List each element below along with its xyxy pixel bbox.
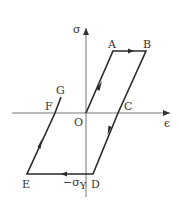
point-G-label: G (56, 84, 65, 97)
point-D-label: D (91, 178, 100, 191)
point-F-label: F (45, 100, 53, 113)
point-B-label: B (143, 38, 151, 51)
neg-yield-stress-label: −σY (63, 176, 87, 191)
arrow-AB-icon (128, 49, 134, 54)
stress-axis-label: σ (73, 23, 81, 36)
point-A-label: A (107, 38, 117, 51)
origin-label: O (74, 116, 83, 129)
strain-axis-label: ϵ (164, 117, 170, 130)
point-E-label: E (22, 178, 30, 191)
stress-strain-diagram: σ ϵ O A B C D E F G −σY (0, 0, 179, 201)
point-C-label: C (124, 100, 132, 113)
